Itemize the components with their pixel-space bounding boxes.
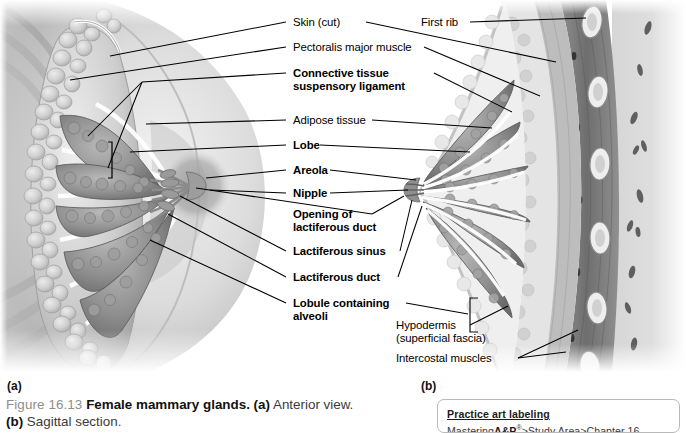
- label-connective-tissue: Connective tissue: [293, 67, 389, 80]
- label-adipose-tissue: Adipose tissue: [293, 114, 366, 127]
- practice-path: MasteringA&P®>Study Area>Chapter 16: [447, 424, 671, 433]
- leader-areola-right: [330, 170, 416, 180]
- leader-lobule-right: [406, 303, 468, 314]
- label-nipple: Nipple: [293, 187, 327, 200]
- figure-artwork: [0, 0, 686, 372]
- leader-opening-right: [372, 196, 404, 214]
- part-a-text: Anterior view.: [273, 397, 353, 412]
- label-superficial-fascia: (superficial fascia): [396, 332, 486, 345]
- leader-duct-right: [398, 206, 422, 277]
- leader-sinus-right: [400, 200, 412, 251]
- label-first-rib: First rib: [421, 16, 458, 29]
- part-a-marker: (a): [254, 397, 270, 412]
- label-alveoli: alveoli: [293, 310, 328, 323]
- panel-a-anterior-view: [0, 0, 284, 372]
- label-opening-of: Opening of: [293, 208, 352, 221]
- label-lobe: Lobe: [293, 139, 320, 152]
- practice-heading[interactable]: Practice art labeling: [447, 408, 550, 420]
- label-skin-cut: Skin (cut): [293, 16, 340, 29]
- panel-letter-a: (a): [7, 379, 22, 393]
- figure-title: Female mammary glands.: [86, 397, 250, 412]
- label-pectoralis-major: Pectoralis major muscle: [293, 41, 412, 54]
- practice-brand: A&P: [494, 425, 517, 433]
- practice-path-prefix: Mastering: [447, 425, 494, 433]
- figure-caption: Figure 16.13 Female mammary glands. (a) …: [6, 396, 416, 430]
- part-b-marker: (b): [6, 414, 23, 429]
- label-lactiferous-sinus: Lactiferous sinus: [293, 245, 386, 258]
- label-lobule-containing: Lobule containing: [293, 297, 389, 310]
- practice-path-rest: >Study Area>Chapter 16: [522, 425, 640, 433]
- part-b-text: Sagittal section.: [27, 414, 122, 429]
- label-suspensory-ligament: suspensory ligament: [293, 80, 405, 93]
- label-hypodermis: Hypodermis: [396, 319, 456, 332]
- leader-nipple-right: [330, 190, 408, 193]
- label-intercostal-muscles: Intercostal muscles: [396, 352, 492, 365]
- label-areola: Areola: [293, 164, 328, 177]
- label-lactiferous-duct-open: lactiferous duct: [293, 221, 376, 234]
- practice-art-labeling-box[interactable]: Practice art labeling MasteringA&P®>Stud…: [437, 399, 680, 433]
- label-lactiferous-duct: Lactiferous duct: [293, 271, 380, 284]
- figure-number: Figure 16.13: [6, 397, 82, 412]
- mammary-gland-illustration: [0, 0, 686, 372]
- panel-letter-b: (b): [421, 379, 436, 393]
